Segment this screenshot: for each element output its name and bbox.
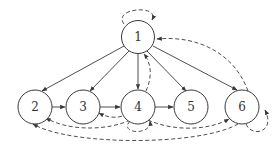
node-3: 3: [66, 90, 100, 124]
node-4: 4: [121, 90, 155, 124]
node-6-label: 6: [238, 100, 246, 114]
node-5: 5: [174, 90, 208, 124]
node-1: 1: [122, 21, 155, 54]
edge-4-1: [144, 54, 150, 91]
edge-6-1: [157, 38, 248, 91]
node-2-label: 2: [31, 100, 39, 114]
node-3-label: 3: [79, 100, 87, 114]
node-4-label: 4: [134, 100, 142, 114]
edge-1-5: [147, 51, 186, 91]
node-6: 6: [225, 90, 259, 124]
edge-1-3: [90, 51, 129, 91]
node-5-label: 5: [187, 100, 195, 114]
node-2: 2: [18, 90, 52, 124]
node-1-label: 1: [134, 30, 142, 44]
edge-1-6: [153, 46, 237, 90]
graph-diagram: 1 2 3 4 5 6: [0, 0, 279, 147]
